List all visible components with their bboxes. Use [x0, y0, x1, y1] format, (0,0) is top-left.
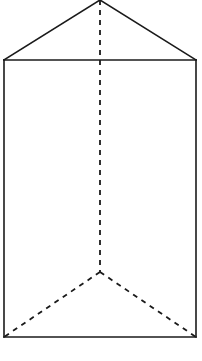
- bottom-right-slant-edge: [100, 272, 196, 337]
- top-left-slant-edge: [4, 0, 100, 60]
- top-right-slant-edge: [100, 0, 196, 60]
- bottom-left-slant-edge: [4, 272, 100, 337]
- hidden-edges: [4, 0, 196, 337]
- triangular-prism-diagram: [0, 0, 202, 361]
